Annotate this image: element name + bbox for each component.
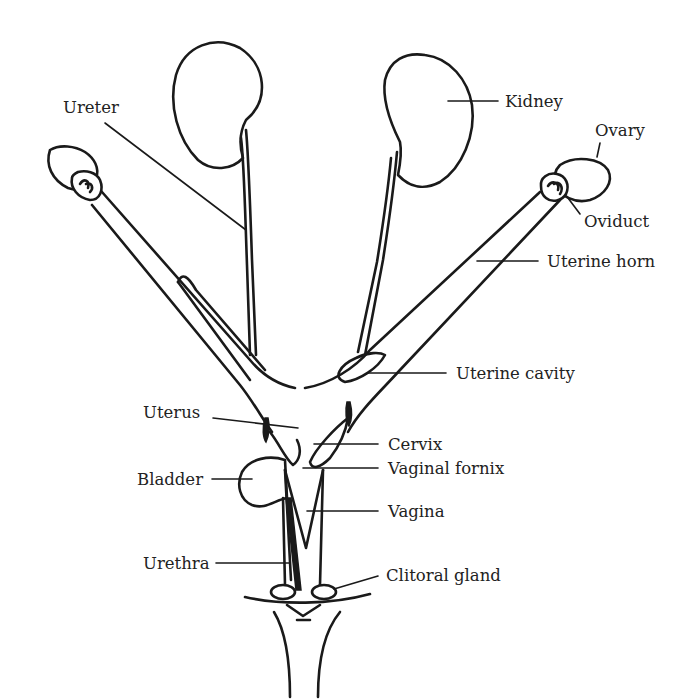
label-uterus: Uterus [143,403,200,422]
right-ureter-inner-wall [358,158,391,352]
left-clitoral-gland [271,585,295,599]
label-uterine-horn: Uterine horn [547,252,656,271]
right-vessel-mark [346,402,351,426]
ovary-leader [597,143,600,157]
label-ovary: Ovary [595,121,646,140]
left-oviduct [72,171,102,200]
label-kidney: Kidney [505,92,564,111]
label-ureter: Ureter [63,98,119,117]
left-uterine-horn [102,192,295,388]
label-vagina: Vagina [387,502,445,521]
perineum-line [245,594,370,603]
clitoral-gland-leader [334,576,378,589]
cervix-right-lobe [310,418,348,467]
right-clitoral-gland [312,585,336,599]
label-clitoral-gland: Clitoral gland [386,566,501,585]
anatomy-diagram: Ureter Kidney Ovary Oviduct Uterine horn… [0,0,687,700]
uterus-leader [213,418,298,428]
vulva-mark [287,605,320,620]
left-body-wall [274,612,290,697]
left-uterine-cavity-wall [178,282,250,380]
urethra-outer-wall [283,498,285,585]
label-bladder: Bladder [137,470,203,489]
label-uterine-cavity: Uterine cavity [456,364,575,383]
label-oviduct: Oviduct [584,212,650,231]
left-vessel-mark [263,418,269,442]
right-uterine-horn-lower-wall [348,200,560,432]
label-urethra: Urethra [143,554,210,573]
right-body-wall [318,612,340,697]
right-kidney [384,54,472,186]
right-oviduct [541,174,568,201]
bladder [239,458,287,507]
right-uterine-horn [305,192,540,388]
label-cervix: Cervix [388,435,443,454]
left-uterine-cavity [178,276,265,370]
label-vaginal-fornix: Vaginal fornix [387,459,505,478]
right-ureter [365,152,397,355]
